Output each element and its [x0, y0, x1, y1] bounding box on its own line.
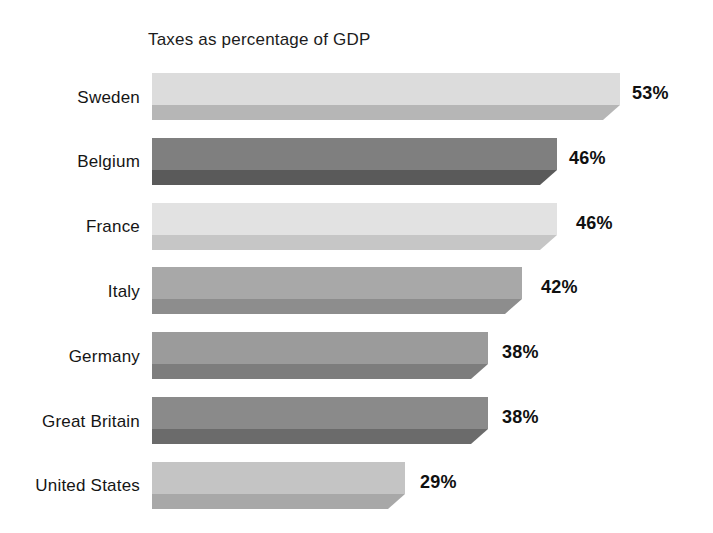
bar-top-face: [152, 267, 522, 299]
value-label-belgium: 46%: [569, 148, 606, 169]
bar-row: Sweden53%: [0, 69, 713, 121]
bar-chart: Taxes as percentage of GDP Sweden53%Belg…: [0, 0, 713, 533]
bar-front-face: [152, 299, 522, 314]
bar-top-face: [152, 73, 620, 105]
bar-top-face: [152, 203, 557, 235]
bar-shape-great-britain[interactable]: [0, 397, 492, 456]
value-label-sweden: 53%: [632, 83, 669, 104]
bar-shape-sweden[interactable]: [0, 73, 624, 132]
bar-shape-france[interactable]: [0, 203, 561, 262]
bar-row: France46%: [0, 199, 713, 251]
bar-row: Italy42%: [0, 263, 713, 315]
bar-top-face: [152, 138, 557, 170]
bar-front-face: [152, 364, 488, 379]
bar-front-face: [152, 170, 557, 185]
bar-shape-germany[interactable]: [0, 332, 492, 391]
bar-top-face: [152, 332, 488, 364]
value-label-germany: 38%: [502, 342, 539, 363]
bar-shape-italy[interactable]: [0, 267, 526, 326]
bar-top-face: [152, 397, 488, 429]
bar-shape-united-states[interactable]: [0, 462, 409, 521]
value-label-france: 46%: [576, 213, 613, 234]
bar-row: Belgium46%: [0, 134, 713, 186]
bar-front-face: [152, 429, 488, 444]
bar-row: Great Britain38%: [0, 393, 713, 445]
bar-front-face: [152, 235, 557, 250]
value-label-italy: 42%: [541, 277, 578, 298]
value-label-great-britain: 38%: [502, 407, 539, 428]
plot-area: Sweden53%Belgium46%France46%Italy42%Germ…: [0, 0, 713, 533]
value-label-united-states: 29%: [420, 472, 457, 493]
bar-shape-belgium[interactable]: [0, 138, 561, 197]
bar-top-face: [152, 462, 405, 494]
bar-front-face: [152, 494, 405, 509]
bar-front-face: [152, 105, 620, 120]
bar-row: United States29%: [0, 458, 713, 510]
bar-row: Germany38%: [0, 328, 713, 380]
